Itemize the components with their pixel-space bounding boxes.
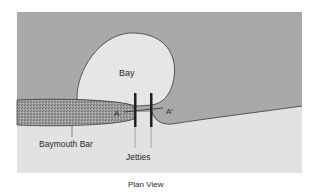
- plan-view-diagram: Bay A A′ Baymouth Bar Jetties Plan View: [0, 0, 315, 192]
- jetty-left: [134, 93, 137, 127]
- baymouth-bar-label: Baymouth Bar: [39, 139, 93, 149]
- section-end-label: A′: [166, 107, 173, 116]
- diagram-caption: Plan View: [128, 180, 164, 189]
- jetties-label: Jetties: [126, 152, 151, 162]
- bay-label: Bay: [119, 68, 135, 78]
- section-start-label: A: [114, 109, 120, 118]
- jetty-right: [150, 93, 153, 127]
